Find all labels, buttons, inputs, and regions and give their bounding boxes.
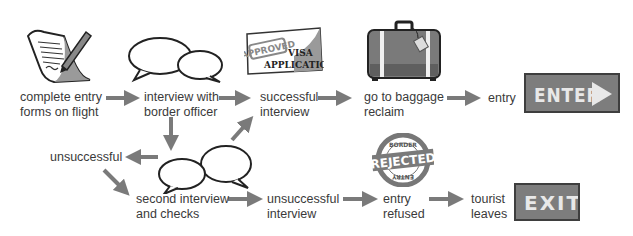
node-entry: entry: [488, 91, 516, 106]
node-baggage-reclaim: go to baggagereclaim: [364, 90, 444, 120]
node-entry-refused: entryrefused: [383, 192, 425, 222]
arrow-unsuccessful-to-second: [104, 170, 124, 190]
node-second-interview: second interviewand checks: [136, 192, 229, 222]
approved-visa-icon: APPROVED VISA APPLICATION: [244, 26, 324, 78]
node-successful-interview: successfulinterview: [260, 90, 318, 120]
svg-text:BORDER: BORDER: [389, 141, 417, 148]
node-complete-entry-forms: complete entryforms on flight: [20, 90, 102, 120]
rejected-stamp-icon: BORDER ENTRY REJECTED: [372, 133, 434, 187]
node-unsuccessful-interview: unsuccessfulinterview: [267, 192, 339, 222]
arrow-second-to-successful: [232, 122, 248, 140]
node-unsuccessful: unsuccessful: [50, 150, 122, 165]
node-interview-border-officer: interview withborder officer: [144, 90, 219, 120]
svg-text:VISA: VISA: [287, 48, 314, 58]
speech-bubbles-icon: [156, 144, 252, 194]
suitcase-icon: [366, 20, 444, 82]
speech-bubbles-icon: [128, 36, 224, 84]
exit-sign-icon: EXIT: [514, 183, 580, 221]
document-pen-icon: [24, 14, 94, 86]
svg-text:ENTRY: ENTRY: [391, 174, 414, 181]
node-tourist-leaves: touristleaves: [471, 192, 507, 222]
svg-text:APPLICATION: APPLICATION: [263, 60, 324, 70]
enter-sign-icon: ENTER: [524, 73, 620, 113]
